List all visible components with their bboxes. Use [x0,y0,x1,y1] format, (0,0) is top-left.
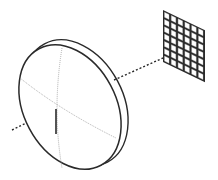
diagram-canvas [0,0,218,180]
lens-front-face [0,27,142,180]
detector-grid [163,10,205,82]
optics-diagram [0,0,218,180]
lens [0,22,149,180]
optical-axis-right [114,58,163,80]
